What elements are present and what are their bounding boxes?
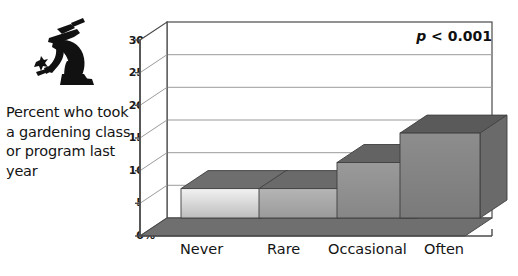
p-value-text: < 0.001 [431,28,492,44]
figure-root: Percent who took a gardening class or pr… [0,0,518,276]
bar-chart: 30% 25% 20% 15% 10% 5% 0% [100,0,518,276]
x-tick-often: Often [424,241,464,257]
plot-left-wall [140,22,167,236]
p-symbol: p [416,28,426,44]
plot-floor [140,218,492,236]
bar-often [400,115,507,218]
x-tick-rare: Rare [267,241,300,257]
gardener-silhouette-icon [26,16,98,92]
x-tick-occasional: Occasional [328,241,407,257]
p-value-annotation: p < 0.001 [416,28,492,44]
x-tick-never: Never [180,241,223,257]
